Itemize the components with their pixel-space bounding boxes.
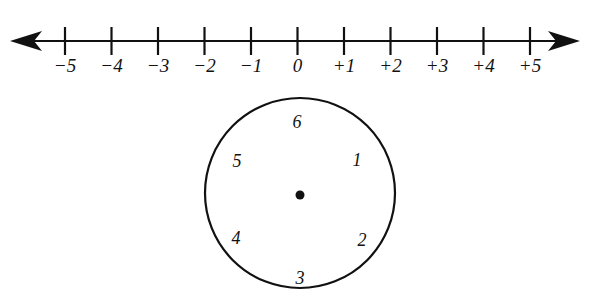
tick-label-plus-2: +2: [379, 55, 402, 76]
tick-label-plus-1: +1: [333, 55, 355, 76]
number-line-tick-labels: −5 −4 −3 −2 −1 0 +1 +2 +3 +4 +5: [54, 55, 541, 76]
spinner-label-3: 3: [295, 268, 305, 288]
spinner-label-1: 1: [353, 150, 362, 170]
tick-label-minus-2: −2: [193, 55, 216, 76]
spinner-pivot-dot: [296, 191, 305, 200]
tick-label-plus-5: +5: [519, 55, 541, 76]
tick-label-plus-4: +4: [472, 55, 495, 76]
math-figure: −5 −4 −3 −2 −1 0 +1 +2 +3 +4 +5 6 1 2 3: [0, 0, 590, 304]
spinner: 6 1 2 3 4 5: [205, 98, 395, 288]
spinner-label-5: 5: [233, 151, 242, 171]
spinner-label-2: 2: [358, 230, 367, 250]
tick-label-minus-4: −4: [100, 55, 123, 76]
tick-label-plus-3: +3: [426, 55, 448, 76]
tick-label-zero: 0: [293, 55, 303, 76]
spinner-label-4: 4: [232, 228, 241, 248]
tick-label-minus-1: −1: [240, 55, 262, 76]
number-line: −5 −4 −3 −2 −1 0 +1 +2 +3 +4 +5: [10, 27, 580, 76]
tick-label-minus-3: −3: [147, 55, 169, 76]
tick-label-minus-5: −5: [54, 55, 76, 76]
spinner-label-6: 6: [293, 112, 302, 132]
